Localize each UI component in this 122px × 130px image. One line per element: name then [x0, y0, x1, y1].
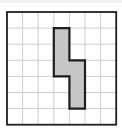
shaded-polygon	[54, 28, 85, 109]
grid-diagram	[0, 0, 122, 130]
